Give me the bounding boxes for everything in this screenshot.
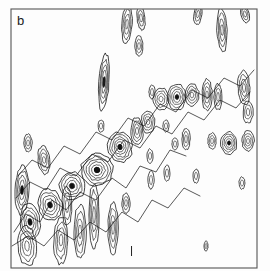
peak-core	[28, 219, 32, 225]
panel-label: b	[17, 14, 24, 27]
peak-core	[21, 186, 24, 194]
peak-core	[70, 183, 75, 188]
figure-panel-b: b	[0, 0, 270, 271]
peak-core	[118, 144, 122, 149]
peak-core	[103, 77, 105, 86]
contour-plot	[0, 0, 270, 271]
peak-core	[48, 202, 53, 208]
peak-core	[176, 95, 179, 99]
peak-core	[228, 141, 231, 145]
